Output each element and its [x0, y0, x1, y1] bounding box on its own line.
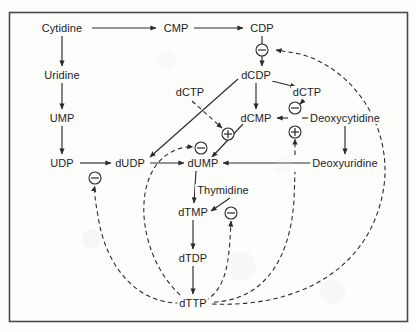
node-dudp: dUDP — [113, 157, 147, 169]
node-dtmp: dTMP — [176, 206, 210, 218]
node-ump: UMP — [48, 112, 77, 124]
node-cdp: CDP — [248, 22, 276, 34]
node-dttp: dTTP — [177, 297, 208, 309]
node-dtdp: dTDP — [177, 252, 210, 264]
node-cytidine: Cytidine — [40, 22, 85, 34]
node-udp: UDP — [48, 157, 76, 169]
feedback-dttp-udp — [95, 186, 180, 303]
node-thymidine: Thymidine — [195, 184, 251, 196]
node-dcdp: dCDP — [239, 69, 273, 81]
node-deoxycytidine: Deoxycytidine — [308, 112, 382, 124]
node-uridine: Uridine — [42, 69, 82, 81]
node-dctp-left: dCTP — [174, 86, 207, 98]
feedback-dttp-dump — [144, 147, 193, 300]
node-dcmp: dCMP — [239, 112, 274, 124]
node-dump: dUMP — [186, 157, 221, 169]
node-cmp: CMP — [162, 22, 191, 34]
pathway-diagram: Cytidine CMP CDP Uridine UMP UDP dCDP dC… — [0, 0, 416, 332]
node-deoxyuridine: Deoxyuridine — [310, 157, 379, 169]
feedback-dctp-dcmp — [300, 101, 303, 104]
node-dctp-right: dCTP — [291, 86, 324, 98]
feedback-dctp-dump — [192, 101, 222, 128]
